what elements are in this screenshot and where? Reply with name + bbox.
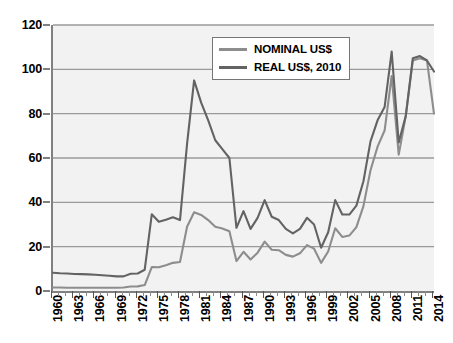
x-tick-label: 1960 bbox=[51, 295, 65, 322]
x-tick-mark bbox=[86, 291, 87, 296]
x-tick-mark bbox=[199, 291, 200, 298]
x-tick-mark bbox=[206, 291, 207, 296]
series-line-real bbox=[53, 52, 434, 277]
x-tick-mark bbox=[242, 291, 243, 298]
x-tick-mark bbox=[284, 291, 285, 298]
x-tick-mark bbox=[150, 291, 151, 296]
x-tick-mark bbox=[425, 291, 426, 296]
y-tick-mark bbox=[43, 68, 50, 70]
x-tick-label: 1978 bbox=[178, 295, 192, 322]
x-tick-mark bbox=[326, 291, 327, 298]
x-tick-mark bbox=[51, 291, 52, 298]
x-tick-label: 1981 bbox=[199, 295, 213, 322]
x-tick-mark bbox=[361, 291, 362, 296]
x-tick-mark bbox=[277, 291, 278, 296]
x-tick-mark bbox=[100, 291, 101, 296]
y-tick-mark bbox=[43, 113, 50, 115]
x-tick-mark bbox=[185, 291, 186, 296]
y-tick-mark bbox=[43, 201, 50, 203]
x-tick-mark bbox=[312, 291, 313, 296]
x-tick-mark bbox=[213, 291, 214, 296]
x-tick-label: 1966 bbox=[93, 295, 107, 322]
x-tick-label: 2008 bbox=[390, 295, 404, 322]
x-tick-mark bbox=[298, 291, 299, 296]
chart-legend: NOMINAL US$REAL US$, 2010 bbox=[212, 37, 350, 80]
x-tick-mark bbox=[376, 291, 377, 296]
x-tick-mark bbox=[157, 291, 158, 298]
y-tick-label: 0 bbox=[35, 285, 42, 298]
oil-price-chart-figure: 020406080100120 196019631966196919721975… bbox=[0, 0, 453, 343]
x-tick-mark bbox=[432, 291, 433, 298]
x-tick-label: 1972 bbox=[136, 295, 150, 322]
x-tick-mark bbox=[58, 291, 59, 296]
x-tick-label: 1963 bbox=[72, 295, 86, 322]
x-tick-mark bbox=[65, 291, 66, 296]
x-tick-mark bbox=[136, 291, 137, 298]
x-tick-mark bbox=[270, 291, 271, 296]
x-tick-mark bbox=[383, 291, 384, 296]
x-tick-label: 1969 bbox=[115, 295, 129, 322]
x-axis: 1960196319661969197219751978198119841987… bbox=[51, 295, 432, 343]
legend-swatch-nominal bbox=[219, 48, 247, 51]
legend-label: REAL US$, 2010 bbox=[254, 62, 341, 74]
x-tick-mark bbox=[220, 291, 221, 298]
x-tick-mark bbox=[171, 291, 172, 296]
y-tick-mark bbox=[43, 290, 50, 292]
series-line-nominal bbox=[53, 58, 434, 287]
x-tick-mark bbox=[305, 291, 306, 298]
x-tick-mark bbox=[411, 291, 412, 298]
x-tick-label: 2011 bbox=[411, 295, 425, 321]
x-tick-mark bbox=[115, 291, 116, 298]
y-tick-mark bbox=[43, 24, 50, 26]
x-tick-mark bbox=[129, 291, 130, 296]
y-tick-label: 60 bbox=[28, 152, 42, 165]
x-tick-mark bbox=[354, 291, 355, 296]
x-tick-mark bbox=[418, 291, 419, 296]
x-tick-mark bbox=[319, 291, 320, 296]
x-tick-label: 1996 bbox=[305, 295, 319, 322]
legend-swatch-real bbox=[219, 66, 247, 69]
x-tick-mark bbox=[390, 291, 391, 298]
x-tick-mark bbox=[164, 291, 165, 296]
legend-item: REAL US$, 2010 bbox=[219, 60, 341, 75]
x-tick-mark bbox=[107, 291, 108, 296]
x-tick-label: 1984 bbox=[220, 295, 234, 322]
y-tick-label: 40 bbox=[28, 196, 42, 209]
x-tick-mark bbox=[249, 291, 250, 296]
x-tick-label: 2002 bbox=[347, 295, 361, 322]
x-tick-label: 1990 bbox=[263, 295, 277, 322]
x-tick-mark bbox=[291, 291, 292, 296]
x-tick-mark bbox=[263, 291, 264, 298]
x-tick-mark bbox=[347, 291, 348, 298]
x-tick-mark bbox=[192, 291, 193, 296]
x-tick-mark bbox=[234, 291, 235, 296]
x-tick-mark bbox=[143, 291, 144, 296]
y-tick-label: 100 bbox=[22, 63, 42, 76]
x-tick-mark bbox=[256, 291, 257, 296]
x-tick-label: 2005 bbox=[369, 295, 383, 322]
x-tick-mark bbox=[404, 291, 405, 296]
y-tick-label: 120 bbox=[22, 19, 42, 32]
x-tick-mark bbox=[397, 291, 398, 296]
x-tick-mark bbox=[93, 291, 94, 298]
x-tick-mark bbox=[79, 291, 80, 296]
x-tick-label: 1999 bbox=[326, 295, 340, 322]
y-tick-mark bbox=[43, 157, 50, 159]
y-axis: 020406080100120 bbox=[0, 25, 42, 291]
y-tick-label: 80 bbox=[28, 107, 42, 120]
x-tick-label: 2014 bbox=[432, 295, 446, 322]
legend-label: NOMINAL US$ bbox=[254, 44, 332, 56]
x-tick-mark bbox=[72, 291, 73, 298]
legend-item: NOMINAL US$ bbox=[219, 42, 341, 57]
x-tick-mark bbox=[369, 291, 370, 298]
x-tick-label: 1993 bbox=[284, 295, 298, 322]
x-tick-label: 1975 bbox=[157, 295, 171, 322]
x-tick-label: 1987 bbox=[242, 295, 256, 322]
y-tick-label: 20 bbox=[28, 240, 42, 253]
x-tick-mark bbox=[122, 291, 123, 296]
x-tick-mark bbox=[333, 291, 334, 296]
x-tick-mark bbox=[340, 291, 341, 296]
y-tick-mark bbox=[43, 246, 50, 248]
x-tick-mark bbox=[178, 291, 179, 298]
x-tick-mark bbox=[227, 291, 228, 296]
